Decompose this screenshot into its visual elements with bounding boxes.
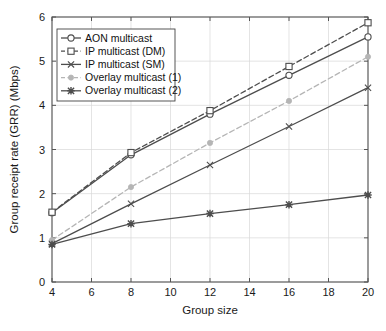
series-marker-1 — [207, 108, 213, 114]
x-tick-label: 4 — [49, 286, 55, 298]
x-tick-label: 14 — [243, 286, 255, 298]
legend-label-0: AON multicast — [85, 32, 152, 44]
series-marker-4 — [48, 241, 55, 248]
x-tick-label: 16 — [283, 286, 295, 298]
y-tick-label: 1 — [39, 232, 45, 244]
x-tick-label: 8 — [128, 286, 134, 298]
x-tick-label: 10 — [164, 286, 176, 298]
legend-label-4: Overlay multicast (2) — [85, 84, 181, 96]
series-marker-1 — [49, 209, 55, 215]
legend-marker-3 — [68, 75, 73, 80]
chart-figure: 4681012141618200123456Group sizeGroup re… — [0, 0, 386, 331]
y-tick-label: 5 — [39, 55, 45, 67]
series-marker-4 — [285, 201, 292, 208]
chart-canvas: 4681012141618200123456Group sizeGroup re… — [0, 0, 386, 331]
x-tick-label: 6 — [88, 286, 94, 298]
series-marker-1 — [128, 149, 134, 155]
series-marker-3 — [286, 98, 291, 103]
y-tick-label: 2 — [39, 188, 45, 200]
series-marker-3 — [365, 54, 370, 59]
y-axis-title: Group receipt rate (GRR) (Mbps) — [8, 65, 20, 233]
series-marker-3 — [128, 184, 133, 189]
legend-marker-4 — [67, 87, 74, 94]
y-tick-label: 0 — [39, 276, 45, 288]
x-axis-title: Group size — [182, 304, 238, 316]
series-marker-1 — [286, 63, 292, 69]
legend-marker-0 — [68, 35, 74, 41]
series-marker-0 — [365, 34, 371, 40]
legend-label-1: IP multicast (DM) — [85, 45, 165, 57]
legend-marker-1 — [68, 48, 74, 54]
x-tick-label: 12 — [204, 286, 216, 298]
legend-label-3: Overlay multicast (1) — [85, 71, 181, 83]
series-marker-1 — [365, 20, 371, 26]
x-tick-label: 20 — [362, 286, 374, 298]
series-marker-0 — [286, 72, 292, 78]
series-marker-4 — [364, 191, 371, 198]
series-marker-4 — [127, 220, 134, 227]
y-tick-label: 4 — [39, 99, 45, 111]
y-tick-label: 3 — [39, 144, 45, 156]
legend-label-2: IP multicast (SM) — [85, 58, 165, 70]
series-marker-3 — [207, 140, 212, 145]
x-tick-label: 18 — [322, 286, 334, 298]
y-tick-label: 6 — [39, 11, 45, 23]
series-marker-4 — [206, 210, 213, 217]
